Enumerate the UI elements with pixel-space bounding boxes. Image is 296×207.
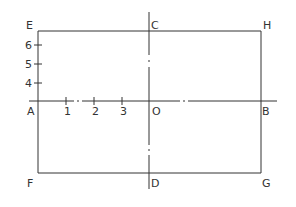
label-f: F (27, 177, 33, 190)
label-e: E (26, 19, 33, 32)
label-g: G (262, 177, 271, 190)
label-h: H (263, 19, 271, 32)
label-b: B (262, 105, 270, 118)
label-a: A (27, 105, 35, 118)
label-d: D (151, 177, 159, 190)
tick-label-2: 2 (92, 105, 99, 118)
label-o: O (152, 105, 161, 118)
tick-label-3: 3 (120, 105, 127, 118)
tick-label-6: 6 (25, 39, 32, 52)
tick-label-4: 4 (25, 77, 32, 90)
tick-label-5: 5 (25, 58, 32, 71)
tick-label-1: 1 (64, 105, 71, 118)
label-c: C (151, 19, 159, 32)
diagram-canvas: E C H A O B F D G 1 2 3 6 5 4 (0, 0, 296, 207)
